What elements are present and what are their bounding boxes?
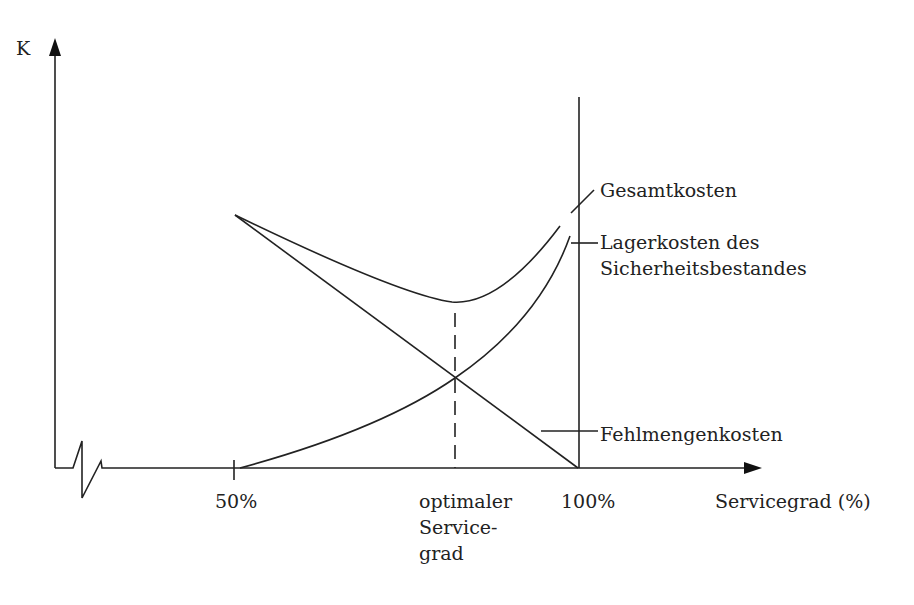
y-axis — [49, 38, 61, 468]
x-axis — [55, 441, 762, 498]
tick-label-100: 100% — [561, 490, 615, 512]
label-lagerkosten-line-2: Sicherheitsbestandes — [600, 257, 807, 279]
curve-fehlmengenkosten — [235, 215, 578, 468]
y-axis-arrow-icon — [49, 38, 61, 56]
curve-gesamtkosten — [235, 215, 560, 302]
optimum-label-line-2: Service- — [419, 516, 497, 538]
optimum-label-line-1: optimaler — [419, 490, 513, 512]
optimum-label-line-3: grad — [419, 542, 464, 564]
leader-gesamtkosten — [571, 190, 594, 213]
label-fehlmengenkosten: Fehlmengenkosten — [600, 423, 783, 445]
service-level-cost-diagram: K Servicegrad (%) 50% 100% optimaler Ser… — [0, 0, 914, 605]
y-axis-label: K — [16, 37, 31, 59]
x-axis-arrow-icon — [744, 462, 762, 474]
label-lagerkosten-line-1: Lagerkosten des — [600, 231, 759, 253]
x-axis-label: Servicegrad (%) — [715, 490, 871, 512]
tick-label-50: 50% — [215, 490, 257, 512]
label-gesamtkosten: Gesamtkosten — [600, 179, 737, 201]
